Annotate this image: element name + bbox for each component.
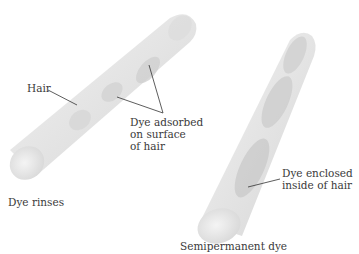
caption-dye-rinses: Dye rinses xyxy=(8,196,64,208)
label-dye-enclosed-1: Dye enclosed xyxy=(282,167,353,179)
label-dye-adsorbed-3: of hair xyxy=(130,140,165,152)
label-hair: Hair xyxy=(27,82,51,94)
label-dye-adsorbed-2: on surface xyxy=(130,128,186,140)
hair-dye-diagram: Hair Dye adsorbed on surface of hair Dye… xyxy=(0,0,359,254)
label-dye-adsorbed-1: Dye adsorbed xyxy=(130,116,203,128)
hair-strand-semipermanent xyxy=(193,33,316,250)
label-dye-enclosed-2: inside of hair xyxy=(282,179,352,191)
caption-semipermanent-dye: Semipermanent dye xyxy=(180,240,287,252)
hair-strand-dye-rinses xyxy=(3,11,197,187)
